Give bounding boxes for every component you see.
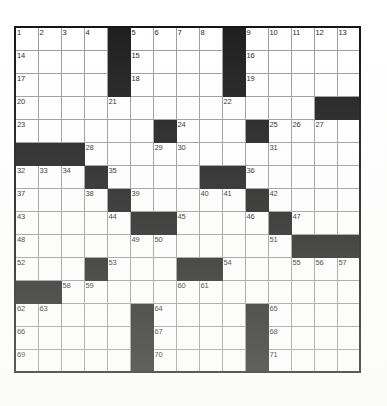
crossword-cell[interactable] (84, 349, 107, 372)
crossword-cell[interactable] (130, 280, 153, 303)
crossword-cell[interactable]: 39 (130, 188, 153, 211)
crossword-cell[interactable] (222, 119, 245, 142)
crossword-cell[interactable] (38, 73, 61, 96)
crossword-cell[interactable]: 1 (15, 27, 38, 50)
crossword-cell[interactable] (61, 303, 84, 326)
crossword-cell[interactable] (38, 188, 61, 211)
crossword-cell[interactable] (84, 303, 107, 326)
crossword-cell[interactable] (337, 280, 360, 303)
crossword-cell[interactable] (107, 234, 130, 257)
crossword-cell[interactable]: 59 (84, 280, 107, 303)
crossword-cell[interactable] (268, 280, 291, 303)
crossword-cell[interactable]: 41 (222, 188, 245, 211)
crossword-cell[interactable]: 31 (268, 142, 291, 165)
crossword-cell[interactable]: 63 (38, 303, 61, 326)
crossword-cell[interactable] (291, 73, 314, 96)
crossword-cell[interactable] (38, 349, 61, 372)
crossword-cell[interactable]: 26 (291, 119, 314, 142)
crossword-cell[interactable] (337, 142, 360, 165)
crossword-cell[interactable]: 36 (245, 165, 268, 188)
crossword-cell[interactable]: 18 (130, 73, 153, 96)
crossword-cell[interactable] (153, 188, 176, 211)
crossword-cell[interactable] (268, 257, 291, 280)
crossword-cell[interactable] (314, 326, 337, 349)
crossword-cell[interactable] (337, 50, 360, 73)
crossword-cell[interactable]: 11 (291, 27, 314, 50)
crossword-cell[interactable]: 35 (107, 165, 130, 188)
crossword-cell[interactable] (314, 349, 337, 372)
crossword-cell[interactable] (314, 50, 337, 73)
crossword-cell[interactable] (107, 119, 130, 142)
crossword-cell[interactable]: 8 (199, 27, 222, 50)
crossword-cell[interactable]: 62 (15, 303, 38, 326)
crossword-cell[interactable] (130, 257, 153, 280)
crossword-cell[interactable] (337, 303, 360, 326)
crossword-cell[interactable]: 27 (314, 119, 337, 142)
crossword-cell[interactable] (222, 303, 245, 326)
crossword-cell[interactable] (268, 50, 291, 73)
crossword-cell[interactable] (38, 326, 61, 349)
crossword-cell[interactable] (268, 73, 291, 96)
crossword-cell[interactable] (176, 188, 199, 211)
crossword-cell[interactable] (130, 96, 153, 119)
crossword-cell[interactable] (291, 188, 314, 211)
crossword-cell[interactable] (245, 257, 268, 280)
crossword-cell[interactable] (291, 326, 314, 349)
crossword-cell[interactable]: 58 (61, 280, 84, 303)
crossword-cell[interactable] (38, 96, 61, 119)
crossword-cell[interactable] (84, 234, 107, 257)
crossword-cell[interactable]: 54 (222, 257, 245, 280)
crossword-cell[interactable] (291, 303, 314, 326)
crossword-cell[interactable] (61, 326, 84, 349)
crossword-cell[interactable] (314, 188, 337, 211)
crossword-cell[interactable]: 67 (153, 326, 176, 349)
crossword-cell[interactable]: 43 (15, 211, 38, 234)
crossword-cell[interactable]: 5 (130, 27, 153, 50)
crossword-cell[interactable]: 7 (176, 27, 199, 50)
crossword-cell[interactable]: 65 (268, 303, 291, 326)
crossword-cell[interactable] (153, 73, 176, 96)
crossword-cell[interactable]: 37 (15, 188, 38, 211)
crossword-cell[interactable] (222, 326, 245, 349)
crossword-cell[interactable] (38, 234, 61, 257)
crossword-cell[interactable] (337, 119, 360, 142)
crossword-cell[interactable] (153, 165, 176, 188)
crossword-cell[interactable] (222, 234, 245, 257)
crossword-cell[interactable] (245, 96, 268, 119)
crossword-cell[interactable] (199, 234, 222, 257)
crossword-cell[interactable] (176, 50, 199, 73)
crossword-cell[interactable] (38, 257, 61, 280)
crossword-cell[interactable]: 47 (291, 211, 314, 234)
crossword-cell[interactable] (199, 119, 222, 142)
crossword-cell[interactable] (199, 303, 222, 326)
crossword-cell[interactable] (314, 165, 337, 188)
crossword-cell[interactable]: 34 (61, 165, 84, 188)
crossword-cell[interactable]: 22 (222, 96, 245, 119)
crossword-cell[interactable]: 69 (15, 349, 38, 372)
crossword-cell[interactable]: 60 (176, 280, 199, 303)
crossword-cell[interactable] (176, 73, 199, 96)
crossword-cell[interactable]: 52 (15, 257, 38, 280)
crossword-cell[interactable] (176, 96, 199, 119)
crossword-cell[interactable] (245, 234, 268, 257)
crossword-cell[interactable]: 9 (245, 27, 268, 50)
crossword-cell[interactable] (291, 96, 314, 119)
crossword-cell[interactable]: 16 (245, 50, 268, 73)
crossword-cell[interactable] (130, 165, 153, 188)
crossword-cell[interactable]: 15 (130, 50, 153, 73)
crossword-cell[interactable] (199, 50, 222, 73)
crossword-cell[interactable] (61, 211, 84, 234)
crossword-cell[interactable] (314, 211, 337, 234)
crossword-cell[interactable]: 45 (176, 211, 199, 234)
crossword-cell[interactable] (337, 165, 360, 188)
crossword-cell[interactable] (291, 280, 314, 303)
crossword-cell[interactable]: 20 (15, 96, 38, 119)
crossword-cell[interactable] (61, 73, 84, 96)
crossword-cell[interactable]: 14 (15, 50, 38, 73)
crossword-cell[interactable]: 23 (15, 119, 38, 142)
crossword-cell[interactable] (84, 211, 107, 234)
crossword-cell[interactable] (107, 142, 130, 165)
crossword-cell[interactable]: 42 (268, 188, 291, 211)
crossword-cell[interactable] (291, 349, 314, 372)
crossword-cell[interactable]: 68 (268, 326, 291, 349)
